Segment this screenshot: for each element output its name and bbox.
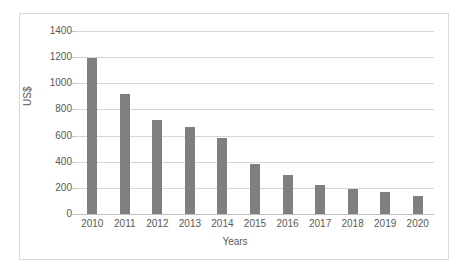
bar-slot <box>174 31 207 214</box>
bar-slot <box>304 31 337 214</box>
bar-slot <box>401 31 434 214</box>
y-tick-label: 1400 <box>38 26 72 36</box>
gridline-0 <box>76 214 434 215</box>
bar-2010[interactable] <box>87 58 97 214</box>
bar-2011[interactable] <box>120 94 130 214</box>
y-tick-label: 200 <box>38 183 72 193</box>
x-tick-label-2019: 2019 <box>369 218 402 230</box>
x-axis-tick-labels: 2010201120122013201420152016201720182019… <box>76 218 434 232</box>
plot-area <box>76 31 434 214</box>
x-tick-label-2012: 2012 <box>141 218 174 230</box>
bar-slot <box>206 31 239 214</box>
bar-slot <box>271 31 304 214</box>
y-tick-mark <box>72 162 76 163</box>
x-tick-label-2018: 2018 <box>336 218 369 230</box>
bar-slot <box>76 31 109 214</box>
x-tick-label-2011: 2011 <box>109 218 142 230</box>
x-tick-label-2020: 2020 <box>401 218 434 230</box>
bar-2017[interactable] <box>315 185 325 214</box>
y-tick-mark <box>72 83 76 84</box>
bar-2013[interactable] <box>185 127 195 214</box>
y-tick-label: 1200 <box>38 52 72 62</box>
x-tick-label-2017: 2017 <box>304 218 337 230</box>
y-tick-mark <box>72 214 76 215</box>
bar-slot <box>336 31 369 214</box>
x-tick-label-2013: 2013 <box>174 218 207 230</box>
bar-2016[interactable] <box>283 175 293 214</box>
y-axis-tick-labels: 1400120010008006004002000 <box>32 31 72 214</box>
y-tick-label: 800 <box>38 104 72 114</box>
bar-chart-figure: US$ 1400120010008006004002000 2010201120… <box>19 13 449 260</box>
y-tick-label: 600 <box>38 131 72 141</box>
x-tick-label-2014: 2014 <box>206 218 239 230</box>
y-tick-mark <box>72 136 76 137</box>
bar-2014[interactable] <box>217 138 227 214</box>
bar-slot <box>239 31 272 214</box>
bar-slot <box>141 31 174 214</box>
x-tick-label-2015: 2015 <box>239 218 272 230</box>
y-tick-mark <box>72 109 76 110</box>
bar-2015[interactable] <box>250 164 260 214</box>
y-tick-mark <box>72 31 76 32</box>
bar-2012[interactable] <box>152 120 162 214</box>
bar-slot <box>109 31 142 214</box>
y-tick-label: 400 <box>38 157 72 167</box>
bar-2018[interactable] <box>348 189 358 214</box>
x-axis-title: Years <box>20 236 450 247</box>
x-tick-label-2016: 2016 <box>271 218 304 230</box>
x-tick-label-2010: 2010 <box>76 218 109 230</box>
bar-slot <box>369 31 402 214</box>
y-tick-label: 1000 <box>38 78 72 88</box>
y-tick-label: 0 <box>38 209 72 219</box>
bar-2019[interactable] <box>380 192 390 214</box>
y-tick-mark <box>72 57 76 58</box>
y-tick-mark <box>72 188 76 189</box>
bars-group <box>76 31 434 214</box>
bar-2020[interactable] <box>413 196 423 214</box>
